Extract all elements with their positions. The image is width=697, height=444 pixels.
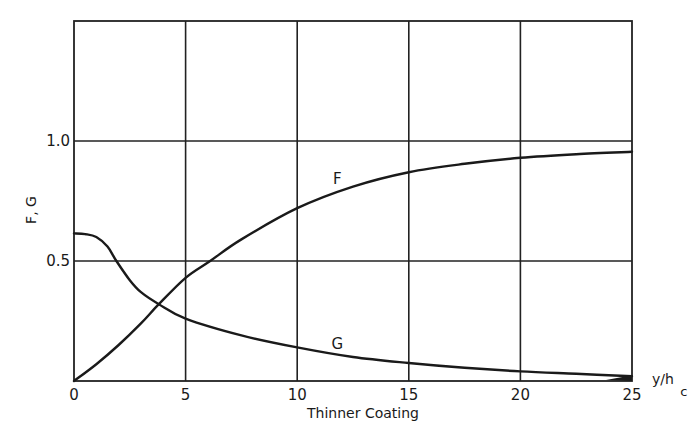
series-label-g: G	[332, 335, 344, 353]
y-tick-label: 1.0	[46, 132, 70, 150]
x-tick-label: 20	[511, 386, 530, 404]
plot-frame	[74, 21, 632, 381]
y-tick-label: 0.5	[46, 252, 70, 270]
x-axis-label: y/h c	[652, 371, 687, 399]
x-tick-label: 10	[288, 386, 307, 404]
chart-caption: Thinner Coating	[306, 405, 419, 421]
y-axis-label: F, G	[23, 196, 39, 224]
x-tick-label: 15	[399, 386, 418, 404]
x-tick-labels: 0510152025	[69, 386, 641, 404]
x-tick-label: 25	[622, 386, 641, 404]
series-g-curve	[74, 233, 632, 376]
x-axis-label-subscript: c	[680, 384, 687, 399]
series-f-curve	[74, 152, 632, 381]
x-axis-label-main: y/h	[652, 371, 674, 387]
x-tick-label: 0	[69, 386, 79, 404]
x-tick-label: 5	[181, 386, 191, 404]
series-label-f: F	[333, 170, 342, 188]
curves	[74, 152, 632, 381]
y-tick-labels: 0.51.0	[46, 132, 70, 270]
gridlines	[74, 21, 632, 381]
chart: 0510152025 0.51.0 FG F, G y/h c Thinner …	[0, 0, 697, 444]
